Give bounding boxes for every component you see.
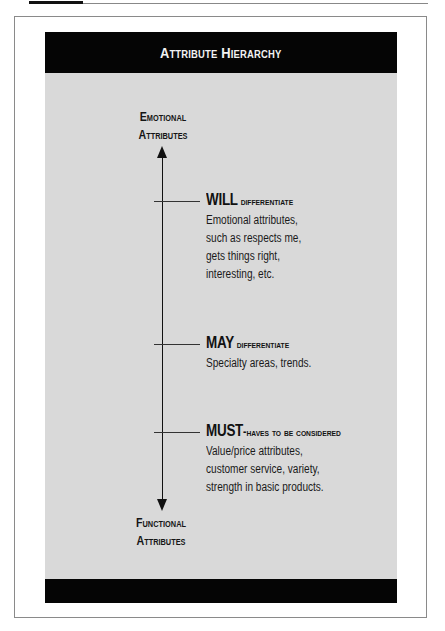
tick-may xyxy=(154,344,200,345)
desc-line: interesting, etc. xyxy=(206,265,391,283)
functional-attributes-label: Functional Attributes xyxy=(127,514,196,550)
level-heading: MUST-haves to be considered xyxy=(206,422,366,441)
tick-must xyxy=(154,432,200,433)
level-keyword: MAY xyxy=(206,334,234,351)
panel-header: Attribute Hierarchy xyxy=(45,32,397,73)
level-heading-rest: differentiate xyxy=(234,337,289,351)
desc-line: such as respects me, xyxy=(206,229,391,247)
emotional-attributes-label: Emotional Attributes xyxy=(129,108,198,144)
level-heading-rest: -haves to be considered xyxy=(243,425,341,439)
level-heading-rest: differentiate xyxy=(238,194,293,208)
level-will-differentiate: WILL differentiate Emotional attributes,… xyxy=(206,191,396,283)
axis-bottom-line1: Functional xyxy=(127,514,196,532)
level-must-haves: MUST-haves to be considered Value/price … xyxy=(206,422,396,496)
desc-line: Specialty areas, trends. xyxy=(206,354,391,372)
level-keyword: WILL xyxy=(206,191,238,208)
level-description: Emotional attributes, such as respects m… xyxy=(206,211,391,283)
desc-line: customer service, variety, xyxy=(206,460,391,478)
panel-footer xyxy=(45,579,397,603)
level-heading: MAY differentiate xyxy=(206,334,366,353)
axis-bottom-line2: Attributes xyxy=(127,532,196,550)
desc-line: strength in basic products. xyxy=(206,478,391,496)
panel-title: Attribute Hierarchy xyxy=(160,44,282,61)
arrow-down-icon xyxy=(157,499,167,511)
attribute-hierarchy-panel: Attribute Hierarchy Emotional Attributes… xyxy=(45,32,397,603)
top-rule-accent xyxy=(29,1,83,4)
level-heading: WILL differentiate xyxy=(206,191,366,210)
level-may-differentiate: MAY differentiate Specialty areas, trend… xyxy=(206,334,396,372)
level-keyword: MUST xyxy=(206,422,243,439)
desc-line: Emotional attributes, xyxy=(206,211,391,229)
level-description: Specialty areas, trends. xyxy=(206,354,391,372)
top-rule xyxy=(83,3,428,4)
level-description: Value/price attributes, customer service… xyxy=(206,442,391,496)
tick-will xyxy=(154,201,200,202)
hierarchy-axis-line xyxy=(162,154,163,507)
desc-line: gets things right, xyxy=(206,247,391,265)
axis-top-line1: Emotional xyxy=(129,108,198,126)
axis-top-line2: Attributes xyxy=(129,126,198,144)
desc-line: Value/price attributes, xyxy=(206,442,391,460)
